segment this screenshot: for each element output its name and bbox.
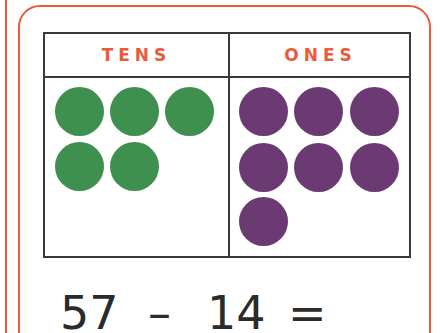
ones-counter — [294, 143, 343, 192]
header-divider — [45, 76, 409, 78]
ones-counter — [239, 197, 288, 246]
equals-sign: = — [288, 290, 327, 333]
tens-counter — [165, 87, 214, 136]
ones-counter — [239, 143, 288, 192]
minus-sign: – — [148, 290, 171, 333]
ones-counter — [350, 143, 399, 192]
column-divider — [228, 34, 230, 256]
ones-header: ONES — [230, 34, 411, 76]
tens-header: TENS — [45, 34, 228, 76]
tens-counter — [110, 87, 159, 136]
tens-counter — [55, 142, 104, 191]
minuend: 57 — [60, 290, 119, 333]
place-value-table: TENS ONES — [43, 32, 411, 258]
ones-counter — [294, 87, 343, 136]
ones-counter — [239, 87, 288, 136]
subtrahend: 14 — [207, 290, 266, 333]
previous-card-edge — [0, 0, 7, 333]
tens-counter — [110, 142, 159, 191]
ones-counter — [350, 87, 399, 136]
tens-counter — [55, 87, 104, 136]
